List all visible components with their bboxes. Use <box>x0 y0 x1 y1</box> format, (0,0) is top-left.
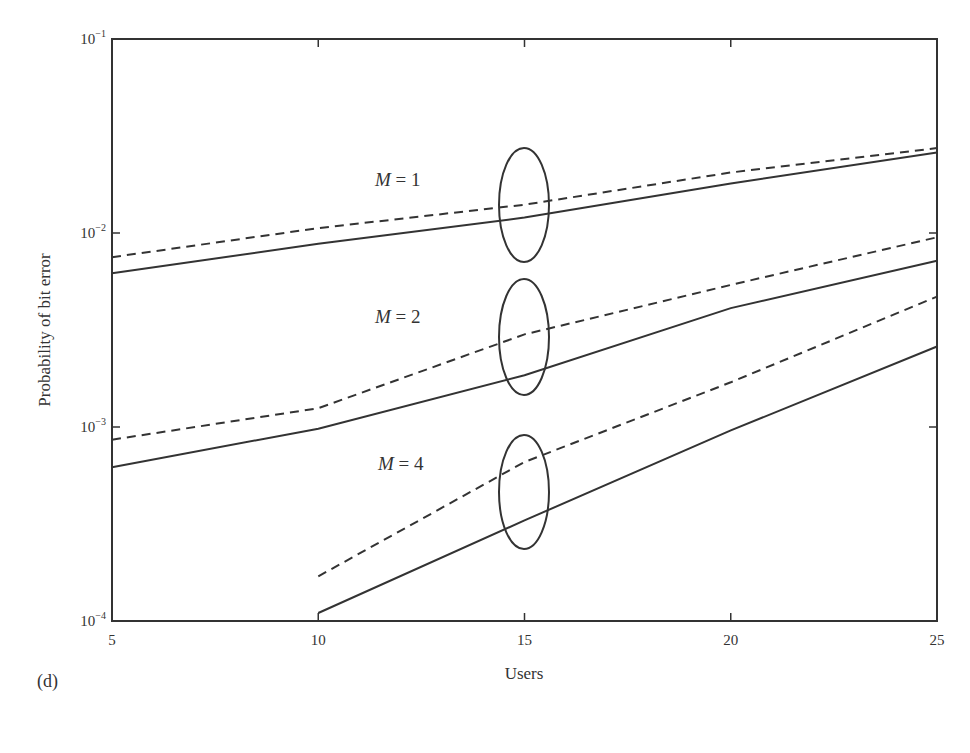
x-tick-label: 5 <box>108 632 116 648</box>
group-ellipse <box>499 148 549 262</box>
series-line-m-1-solid <box>112 153 937 274</box>
plot-frame <box>112 39 937 621</box>
x-tick-label: 20 <box>723 632 738 648</box>
y-axis-label: Probability of bit error <box>35 253 54 407</box>
series-line-m-4-solid <box>318 347 937 614</box>
y-tick-label: 10−3 <box>80 416 106 435</box>
group-label: M = 4 <box>377 453 424 474</box>
series-lines <box>112 148 937 613</box>
panel-label: (d) <box>37 671 58 692</box>
x-tick-label: 25 <box>930 632 945 648</box>
group-label: M = 1 <box>374 169 421 190</box>
x-axis-label: Users <box>505 664 544 683</box>
series-line-m-4-dashed <box>318 297 937 577</box>
x-tick-label: 15 <box>517 632 532 648</box>
y-tick-label: 10−2 <box>80 222 106 241</box>
group-label: M = 2 <box>374 306 421 327</box>
y-tick-label: 10−4 <box>80 610 106 629</box>
series-line-m-2-solid <box>112 261 937 468</box>
series-line-m-1-dashed <box>112 148 937 257</box>
group-annotations: M = 1M = 2M = 4 <box>374 148 549 549</box>
group-ellipse <box>499 435 549 549</box>
bit-error-chart: 510152025 10−110−210−310−4 M = 1M = 2M =… <box>0 0 970 753</box>
x-axis-ticks: 510152025 <box>108 39 944 648</box>
y-tick-label: 10−1 <box>80 28 106 47</box>
series-line-m-2-dashed <box>112 237 937 439</box>
x-tick-label: 10 <box>311 632 326 648</box>
group-ellipse <box>499 279 549 395</box>
